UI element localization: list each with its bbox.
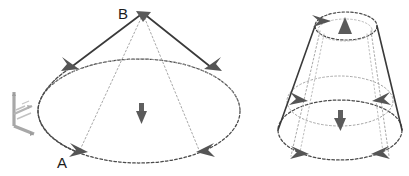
frustum-generator-right-inner: [367, 34, 383, 152]
cone-generator-left: [80, 14, 143, 150]
frustum-generator-right: [371, 31, 389, 156]
apex-label-b: B: [118, 5, 128, 22]
cone-surface-figure: B A: [0, 0, 409, 176]
frustum-generator-left: [291, 31, 320, 156]
cone-rim-arrowhead-lower-right: [196, 143, 215, 157]
frustum-bottom-arrowhead-right: [371, 146, 390, 159]
frustum-bottom-normal-arrow-icon: [334, 110, 346, 131]
base-label-a: A: [57, 154, 67, 171]
diagram-canvas: B A: [0, 0, 409, 176]
truncated-cone-figure: [278, 12, 402, 160]
cone-center-normal-arrow-icon: [136, 103, 147, 124]
frustum-generator-left-inner: [300, 34, 324, 152]
cone-left-slant-edge: [70, 13, 143, 68]
cone-figure: B A: [38, 5, 240, 171]
frustum-right-slant-edge: [377, 26, 402, 130]
axis-triad-icon: [12, 92, 34, 136]
